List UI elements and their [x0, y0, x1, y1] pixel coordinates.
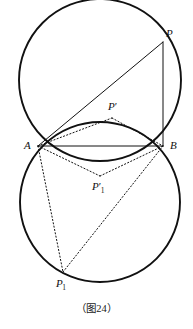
point-label-a: A [24, 140, 31, 151]
geometry-figure: ABPP′P′1P1 （图24） [0, 0, 193, 329]
segment-a-p1 [38, 146, 63, 272]
point-label-b: B [170, 140, 177, 151]
figure-caption: （图24） [0, 300, 193, 315]
segment-a-p [38, 42, 163, 146]
segments-group [38, 42, 163, 272]
point-label-pprime1: P′1 [92, 181, 105, 192]
point-label-text: P [166, 27, 173, 39]
point-label-text: P [108, 100, 115, 112]
point-label-text: B [170, 139, 177, 151]
geometry-canvas [0, 0, 193, 329]
point-label-prime: ′ [115, 100, 117, 112]
point-label-text: P [92, 180, 99, 192]
point-label-pprime: P′ [108, 101, 117, 112]
point-label-p1: P1 [56, 278, 66, 289]
point-label-text: A [24, 139, 31, 151]
point-label-p: P [166, 28, 173, 39]
point-label-subscript: 1 [62, 283, 66, 292]
upper-circle [19, 0, 181, 161]
point-label-subscript: 1 [101, 186, 105, 195]
